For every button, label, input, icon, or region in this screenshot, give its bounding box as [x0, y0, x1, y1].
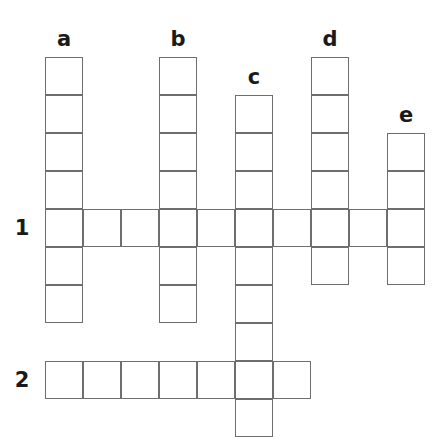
grid-cell[interactable] — [235, 95, 273, 133]
row-label-1: 1 — [9, 218, 35, 239]
grid-cell[interactable] — [159, 247, 197, 285]
grid-cell[interactable] — [311, 171, 349, 209]
grid-cell[interactable] — [45, 361, 83, 399]
grid-cell[interactable] — [45, 247, 83, 285]
grid-cell[interactable] — [45, 171, 83, 209]
grid-cell[interactable] — [235, 323, 273, 361]
grid-cell[interactable] — [311, 133, 349, 171]
grid-cell[interactable] — [387, 171, 425, 209]
row-label-2: 2 — [9, 370, 35, 391]
grid-cell[interactable] — [83, 361, 121, 399]
column-label-b: b — [159, 29, 197, 50]
grid-cell[interactable] — [197, 209, 235, 247]
grid-cell[interactable] — [311, 95, 349, 133]
grid-cell[interactable] — [159, 133, 197, 171]
grid-cell[interactable] — [311, 57, 349, 95]
grid-cell[interactable] — [159, 361, 197, 399]
grid-cell[interactable] — [45, 133, 83, 171]
grid-cell[interactable] — [311, 247, 349, 285]
grid-cell[interactable] — [387, 209, 425, 247]
grid-cell[interactable] — [83, 209, 121, 247]
grid-cell[interactable] — [45, 209, 83, 247]
grid-cell[interactable] — [159, 171, 197, 209]
grid-cell[interactable] — [235, 171, 273, 209]
column-label-c: c — [235, 67, 273, 88]
grid-cell[interactable] — [159, 95, 197, 133]
grid-cell[interactable] — [311, 209, 349, 247]
grid-cell[interactable] — [387, 133, 425, 171]
grid-cell[interactable] — [159, 285, 197, 323]
grid-cell[interactable] — [235, 361, 273, 399]
grid-cell[interactable] — [235, 399, 273, 437]
column-label-d: d — [311, 29, 349, 50]
grid-cell[interactable] — [121, 361, 159, 399]
grid-cell[interactable] — [273, 209, 311, 247]
grid-cell[interactable] — [387, 247, 425, 285]
grid-cell[interactable] — [159, 209, 197, 247]
grid-cell[interactable] — [235, 247, 273, 285]
grid-cell[interactable] — [45, 57, 83, 95]
grid-cell[interactable] — [235, 133, 273, 171]
grid-cell[interactable] — [273, 361, 311, 399]
grid-cell[interactable] — [197, 361, 235, 399]
grid-cell[interactable] — [45, 95, 83, 133]
column-label-e: e — [387, 105, 425, 126]
row-1-cell-divider — [121, 209, 122, 247]
grid-cell[interactable] — [235, 209, 273, 247]
grid-cell[interactable] — [349, 209, 387, 247]
grid-cell[interactable] — [121, 209, 159, 247]
grid-cell[interactable] — [159, 57, 197, 95]
grid-cell[interactable] — [235, 285, 273, 323]
grid-cell[interactable] — [45, 285, 83, 323]
column-label-a: a — [45, 29, 83, 50]
